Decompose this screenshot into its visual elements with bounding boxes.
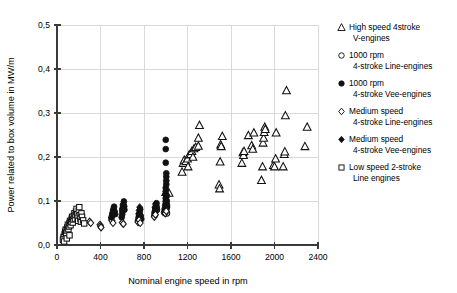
y-tick-label: 0,0 <box>38 240 50 250</box>
x-tick-label: 400 <box>93 252 108 262</box>
data-marker-circle <box>163 170 169 176</box>
data-marker-triangle <box>279 163 287 170</box>
legend-marker-circle-open <box>337 51 346 60</box>
y-tick-label: 0,5 <box>38 20 50 30</box>
x-tick-label: 800 <box>137 252 152 262</box>
legend-label-line1: Medium speed <box>349 134 457 145</box>
y-axis-title: Power related to box volume in MW/m <box>6 57 16 213</box>
legend-marker-triangle-open <box>337 23 346 32</box>
legend-label-line1: 1000 rpm <box>349 78 457 89</box>
data-marker-diamond <box>339 136 345 143</box>
legend-marker-square-open <box>337 163 346 172</box>
y-tick-label: 0,2 <box>38 152 50 162</box>
legend-label-line2: V-engines <box>349 33 457 44</box>
legend-marker-diamond-filled <box>337 135 346 144</box>
data-marker-triangle <box>259 163 267 170</box>
data-marker-triangle <box>194 134 202 141</box>
data-marker-square <box>67 233 72 238</box>
legend-entry[interactable]: 1000 rpm4-stroke Vee-engines <box>337 78 457 99</box>
legend-label-line2: 4-stroke Vee-engines <box>349 145 457 156</box>
y-tick-label: 0,3 <box>38 108 50 118</box>
data-marker-triangle <box>338 24 345 31</box>
data-marker-circle <box>163 160 169 166</box>
legend-label-line2: 4-stroke Vee-engines <box>349 89 457 100</box>
data-points <box>60 86 311 244</box>
legend-entry[interactable]: 1000 rpm4-stroke Line-engines <box>337 50 457 71</box>
scatter-chart-figure: 0,00,10,20,30,40,50400800120016002000240… <box>0 0 457 293</box>
x-tick-label: 2400 <box>308 252 327 262</box>
legend-label-line1: 1000 rpm <box>349 50 457 61</box>
data-marker-triangle <box>218 132 226 139</box>
data-marker-triangle <box>196 121 204 128</box>
y-tick-label: 0,1 <box>38 196 50 206</box>
x-tick-label: 1600 <box>221 252 240 262</box>
data-marker-triangle <box>303 123 311 130</box>
legend-entry[interactable]: Medium speed4-stroke Line-engines <box>337 106 457 127</box>
legend-label-line1: Medium speed <box>349 106 457 117</box>
legend-label-line2: 4-stroke Line-engines <box>349 117 457 128</box>
data-marker-diamond <box>339 108 345 115</box>
data-marker-circle <box>339 81 344 86</box>
data-marker-triangle <box>281 148 289 155</box>
data-marker-triangle <box>272 129 280 136</box>
data-marker-triangle <box>250 129 258 136</box>
data-marker-triangle <box>272 155 280 162</box>
data-marker-square <box>339 165 344 170</box>
legend-marker-circle-filled <box>337 79 346 88</box>
data-marker-triangle <box>301 142 309 149</box>
data-marker-square <box>81 221 86 226</box>
data-marker-triangle <box>216 158 224 165</box>
y-tick-label: 0,4 <box>38 64 50 74</box>
series-group <box>162 86 311 196</box>
data-marker-circle <box>163 146 169 152</box>
legend-label-line2: 4-stroke Line-engines <box>349 61 457 72</box>
legend-entry[interactable]: Low speed 2-strokeLine engines <box>337 162 457 183</box>
legend-label-line1: Low speed 2-stroke <box>349 162 457 173</box>
x-tick-label: 0 <box>55 252 60 262</box>
legend-label-line1: High speed 4stroke <box>349 22 457 33</box>
legend-entry[interactable]: High speed 4strokeV-engines <box>337 22 457 43</box>
data-marker-triangle <box>238 159 246 166</box>
axes <box>54 25 319 249</box>
x-tick-label: 2000 <box>265 252 284 262</box>
legend-entry[interactable]: Medium speed4-stroke Vee-engines <box>337 134 457 155</box>
x-tick-label: 1200 <box>178 252 197 262</box>
data-marker-square <box>77 204 82 209</box>
data-marker-triangle <box>258 176 266 183</box>
data-marker-triangle <box>283 86 291 93</box>
data-marker-circle <box>163 137 169 143</box>
legend-marker-diamond-open <box>337 107 346 116</box>
data-marker-circle <box>339 53 344 58</box>
series-group <box>60 204 87 244</box>
chart-legend: High speed 4strokeV-engines1000 rpm4-str… <box>337 22 457 190</box>
x-axis-title: Nominal engine speed in rpm <box>128 276 248 286</box>
legend-label-line2: Line engines <box>349 173 457 184</box>
